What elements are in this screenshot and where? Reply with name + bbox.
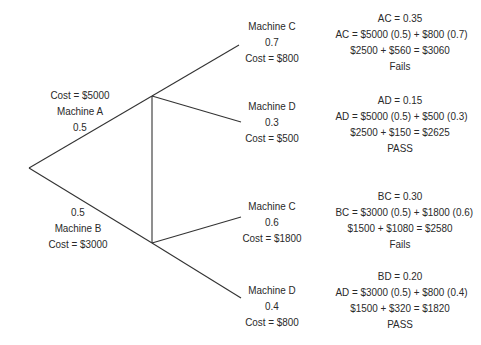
machine-b-name: Machine B xyxy=(44,220,113,236)
machine-name: Machine C xyxy=(238,198,307,214)
branch-a-to-d xyxy=(152,96,241,122)
outcome-formula: AD = $3000 (0.5) + $800 (0.4) xyxy=(336,284,465,300)
branch-a-to-c xyxy=(152,45,239,96)
outcome-bd: BD = 0.20 AD = $3000 (0.5) + $800 (0.4) … xyxy=(336,268,465,332)
machine-d-upper-label: Machine D 0.3 Cost = $500 xyxy=(238,98,307,146)
machine-c-upper-label: Machine C 0.7 Cost = $800 xyxy=(238,18,307,66)
machine-b-cost: Cost = $3000 xyxy=(44,236,113,252)
machine-name: Machine D xyxy=(238,282,307,298)
machine-cost: Cost = $800 xyxy=(238,314,307,330)
machine-probability: 0.6 xyxy=(238,214,307,230)
machine-probability: 0.4 xyxy=(238,298,307,314)
outcome-result: Fails xyxy=(336,236,465,252)
outcome-sum: $1500 + $320 = $1820 xyxy=(336,300,465,316)
outcome-result: PASS xyxy=(336,316,465,332)
outcome-result: PASS xyxy=(336,140,465,156)
machine-a-probability: 0.5 xyxy=(46,119,115,135)
outcome-bc: BC = 0.30 BC = $3000 (0.5) + $1800 (0.6)… xyxy=(336,188,465,252)
machine-c-lower-label: Machine C 0.6 Cost = $1800 xyxy=(238,198,307,246)
machine-name: Machine D xyxy=(238,98,307,114)
outcome-result: Fails xyxy=(336,58,465,74)
machine-name: Machine C xyxy=(238,18,307,34)
decision-tree-diagram: Cost = $5000 Machine A 0.5 0.5 Machine B… xyxy=(0,0,481,345)
machine-a-cost: Cost = $5000 xyxy=(46,87,115,103)
outcome-joint-probability: AD = 0.15 xyxy=(336,92,465,108)
machine-cost: Cost = $800 xyxy=(238,50,307,66)
outcome-ac: AC = 0.35 AC = $5000 (0.5) + $800 (0.7) … xyxy=(336,10,465,74)
outcome-formula: AD = $5000 (0.5) + $500 (0.3) xyxy=(336,108,465,124)
machine-d-lower-label: Machine D 0.4 Cost = $800 xyxy=(238,282,307,330)
machine-cost: Cost = $500 xyxy=(238,130,307,146)
machine-b-probability: 0.5 xyxy=(44,204,113,220)
outcome-joint-probability: BC = 0.30 xyxy=(336,188,465,204)
branch-b-to-c xyxy=(152,217,241,243)
outcome-joint-probability: BD = 0.20 xyxy=(336,268,465,284)
outcome-sum: $1500 + $1080 = $2580 xyxy=(336,220,465,236)
outcome-ad: AD = 0.15 AD = $5000 (0.5) + $500 (0.3) … xyxy=(336,92,465,156)
outcome-sum: $2500 + $560 = $3060 xyxy=(336,42,465,58)
outcome-formula: BC = $3000 (0.5) + $1800 (0.6) xyxy=(336,204,465,220)
machine-cost: Cost = $1800 xyxy=(238,230,307,246)
outcome-joint-probability: AC = 0.35 xyxy=(336,10,465,26)
outcome-sum: $2500 + $150 = $2625 xyxy=(336,124,465,140)
machine-a-label: Cost = $5000 Machine A 0.5 xyxy=(46,87,115,135)
machine-probability: 0.3 xyxy=(238,114,307,130)
branch-b-to-d xyxy=(152,243,241,298)
machine-a-name: Machine A xyxy=(46,103,115,119)
outcome-formula: AC = $5000 (0.5) + $800 (0.7) xyxy=(336,26,465,42)
machine-b-label: 0.5 Machine B Cost = $3000 xyxy=(44,204,113,252)
machine-probability: 0.7 xyxy=(238,34,307,50)
